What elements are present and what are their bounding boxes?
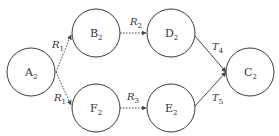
edge-label-r3: R3 [126, 91, 139, 105]
edge-label-r1-top: R1 [51, 39, 64, 53]
node-e2: E2 [147, 84, 195, 132]
node-c2: C2 [226, 48, 274, 96]
edge-label-r2: R2 [129, 16, 142, 30]
node-d2: D2 [147, 9, 195, 57]
edge-label-t5: T5 [212, 92, 223, 106]
node-f2: F2 [72, 84, 120, 132]
edge-label-t4: T4 [212, 41, 224, 55]
node-b2: B2 [72, 9, 120, 57]
edge-label-r1-bottom: R1 [53, 92, 66, 106]
flow-diagram: R1 R1 R2 R3 T4 T5 A2 B2 F2 D2 E2 C2 [0, 0, 279, 136]
node-a2: A2 [7, 48, 55, 96]
